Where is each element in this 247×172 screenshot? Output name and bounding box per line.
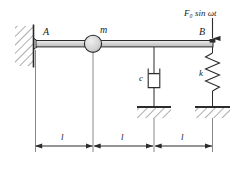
force-application-block	[210, 39, 216, 43]
label-dimension-3: l	[181, 132, 184, 142]
label-support-a: A	[42, 26, 50, 37]
spring-ground-hatching	[195, 108, 230, 119]
label-dimension-1: l	[61, 132, 64, 142]
label-mass-m: m	[100, 24, 107, 35]
label-point-b: B	[199, 26, 205, 37]
vibration-diagram: A m B F₀ sin ωt c k l l l	[0, 0, 247, 172]
spring-assembly	[195, 47, 230, 118]
mass-circle	[84, 35, 101, 52]
damper-cylinder	[148, 69, 160, 88]
damper-ground-hatching	[137, 108, 171, 119]
wall-hatching	[15, 26, 33, 66]
label-dimension-2: l	[121, 132, 124, 142]
label-damper-c: c	[139, 73, 143, 83]
rigid-beam	[36, 41, 213, 47]
label-spring-k: k	[199, 68, 204, 78]
label-force: F₀ sin ωt	[183, 8, 217, 18]
wall-support	[15, 25, 34, 68]
diagram-canvas: A m B F₀ sin ωt c k l l l	[0, 0, 247, 172]
applied-force	[210, 18, 216, 43]
lumped-mass	[84, 35, 101, 52]
spring-coil	[206, 53, 220, 91]
beam-body	[36, 41, 213, 47]
